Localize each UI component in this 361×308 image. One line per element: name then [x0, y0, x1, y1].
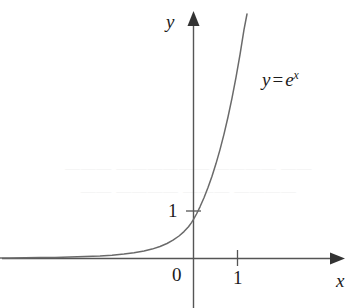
exponential-function-figure: —— ———— —————— ——— ———— ——— ———— —— y x …: [0, 0, 361, 308]
curve-exponent: x: [294, 69, 299, 82]
y-axis-label: y: [166, 12, 174, 31]
graph-canvas: [0, 0, 361, 308]
curve-equals-sign: =: [270, 69, 285, 90]
exponential-curve: [0, 14, 247, 258]
x-axis-arrowhead-icon: [330, 253, 345, 265]
origin-label: 0: [172, 265, 182, 284]
y-axis: [186, 11, 201, 308]
y-axis-arrowhead-icon: [188, 11, 200, 26]
x-axis-label: x: [336, 271, 344, 290]
x-tick-one-label: 1: [233, 268, 243, 287]
curve-equation-label: y=ex: [262, 70, 299, 89]
curve-base: e: [285, 69, 293, 90]
y-tick-one-label: 1: [168, 201, 178, 220]
